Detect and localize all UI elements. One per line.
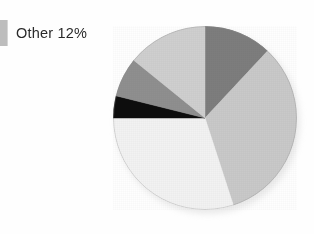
legend-label-other: Other 12% (16, 25, 87, 41)
legend-swatch-other (0, 20, 8, 46)
pie-svg (113, 26, 297, 210)
pie-chart-figure: Other 12% (0, 0, 314, 234)
pie-chart (113, 26, 297, 210)
pie-slices-container (113, 26, 297, 210)
chart-legend: Other 12% (0, 20, 87, 46)
